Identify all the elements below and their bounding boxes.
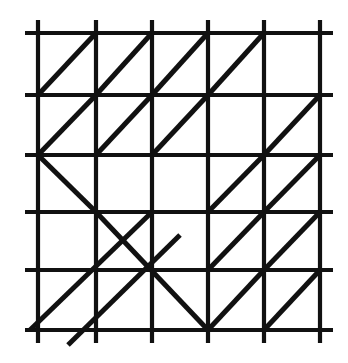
lattice-figure [0,0,348,363]
lattice-canvas [0,0,348,363]
